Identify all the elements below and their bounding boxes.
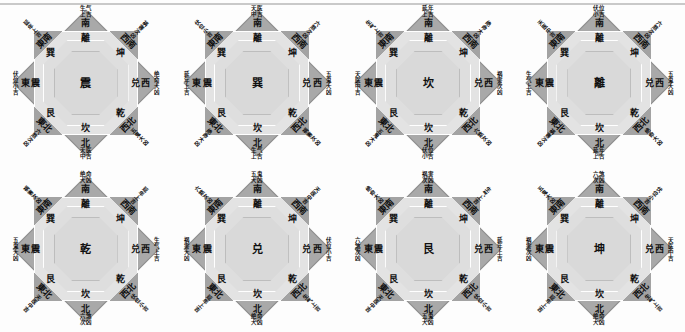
bagua-diagram-3[interactable]: 坎離坤兑乾坎艮震巽南西南西西北北東北東東南延年上吉绝命大凶祸害次凶六煞次凶伏位小…	[343, 0, 514, 166]
inner-trigram-n: 離	[595, 33, 604, 42]
center-trigram: 震	[80, 78, 91, 89]
star-label-n: 绝命大凶	[80, 172, 92, 184]
star-label-sw: 天医中吉	[364, 293, 384, 313]
star-grade-w: 次凶	[526, 249, 532, 261]
star-grade-s: 大凶	[251, 320, 263, 326]
star-label-se: 伏位小吉	[472, 293, 492, 313]
inner-trigram-e: 兑	[131, 79, 140, 88]
inner-trigram-s: 坎	[424, 290, 433, 299]
inner-trigram-w: 震	[203, 245, 212, 254]
inner-trigram-w: 震	[374, 79, 383, 88]
star-label-n: 祸害次凶	[422, 172, 434, 184]
inner-trigram-w: 震	[203, 79, 212, 88]
bagua-diagram-2[interactable]: 巽離坤兑乾坎艮震巽南西南西西北北東北東東南天医中吉六煞次凶五鬼大凶祸害次凶生气上…	[171, 0, 342, 166]
direction-label-n: 南	[424, 184, 433, 193]
bagua-diagram-6[interactable]: 兑離坤兑乾坎艮震巽南西南西西北北東北東東南五鬼大凶天医中吉伏位小吉生气上吉绝命大…	[171, 166, 342, 332]
star-label-e: 五鬼大凶	[325, 71, 331, 95]
inner-trigram-nw: 巽	[560, 48, 569, 57]
star-grade-se: 大凶	[651, 135, 663, 147]
star-grade-sw: 次凶	[535, 135, 547, 147]
star-label-e: 绝命大凶	[154, 71, 160, 95]
star-label-sw: 天医中吉	[22, 293, 42, 313]
star-grade-e: 上吉	[154, 249, 160, 261]
bagua-compass: 兑離坤兑乾坎艮震巽南西南西西北北東北東東南五鬼大凶天医中吉伏位小吉生气上吉绝命大…	[179, 171, 335, 327]
bagua-diagram-8[interactable]: 坤離坤兑乾坎艮震巽南西南西西北北東北東東南六煞次凶伏位小吉天医中吉生气上吉绝命大…	[514, 166, 685, 332]
star-label-nw: 生气上吉	[364, 19, 384, 39]
star-label-nw: 天医中吉	[535, 19, 555, 39]
star-grade-ne: 次凶	[301, 27, 313, 39]
direction-label-n: 南	[81, 184, 90, 193]
star-label-se: 伏位小吉	[129, 293, 149, 313]
center-trigram: 坎	[423, 78, 434, 89]
direction-label-w: 東	[535, 245, 544, 254]
inner-trigram-s: 坎	[595, 124, 604, 133]
star-grade-se: 上吉	[309, 301, 321, 313]
star-grade-ne: 上吉	[472, 193, 484, 205]
inner-trigram-s: 坎	[81, 124, 90, 133]
star-label-s: 五鬼大凶	[422, 314, 434, 326]
star-grade-n: 中吉	[251, 12, 263, 18]
inner-trigram-e: 兑	[645, 79, 654, 88]
inner-trigram-sw: 艮	[217, 275, 226, 284]
star-grade-e: 大凶	[154, 83, 160, 95]
inner-trigram-se: 乾	[288, 275, 297, 284]
star-grade-s: 小吉	[422, 154, 434, 160]
star-label-ne: 生气上吉	[472, 185, 492, 205]
star-name-e: 伏位	[325, 237, 331, 249]
bagua-diagram-5[interactable]: 乾離坤兑乾坎艮震巽南西南西西北北東北東東南绝命大凶延年上吉生气上吉伏位小吉六煞次…	[0, 166, 171, 332]
star-label-nw: 五鬼大凶	[535, 185, 555, 205]
star-grade-ne: 小吉	[643, 193, 655, 205]
bagua-diagram-7[interactable]: 艮離坤兑乾坎艮震巽南西南西西北北東北東東南祸害次凶生气上吉延年上吉伏位小吉五鬼大…	[343, 166, 514, 332]
direction-label-s: 北	[81, 139, 90, 148]
direction-label-n: 南	[81, 18, 90, 27]
inner-trigram-e: 兑	[474, 245, 483, 254]
inner-trigram-n: 離	[81, 199, 90, 208]
inner-trigram-se: 乾	[630, 275, 639, 284]
star-grade-w: 中吉	[354, 83, 360, 95]
star-label-e: 生气上吉	[154, 237, 160, 261]
bagua-diagram-4[interactable]: 離離坤兑乾坎艮震巽南西南西西北北東北東東南伏位小吉六煞次凶五鬼大凶绝命大凶延年上…	[514, 0, 685, 166]
inner-trigram-nw: 巽	[389, 214, 398, 223]
direction-label-s: 北	[595, 139, 604, 148]
star-label-ne: 延年上吉	[129, 185, 149, 205]
star-grade-e: 小吉	[325, 249, 331, 261]
star-label-se: 生气上吉	[301, 293, 321, 313]
star-label-nw: 伏位小吉	[193, 19, 213, 39]
star-label-sw: 祸害次凶	[535, 127, 555, 147]
inner-trigram-n: 離	[253, 199, 262, 208]
star-grade-se: 小吉	[137, 301, 149, 313]
star-label-ne: 伏位小吉	[643, 185, 663, 205]
inner-trigram-sw: 艮	[46, 275, 55, 284]
center-trigram: 坤	[594, 244, 605, 255]
star-grade-w: 上吉	[526, 83, 532, 95]
star-grade-n: 大凶	[251, 178, 263, 184]
star-label-w: 延年上吉	[183, 71, 189, 95]
star-grade-n: 次凶	[593, 178, 605, 184]
bagua-compass: 坎離坤兑乾坎艮震巽南西南西西北北東北東東南延年上吉绝命大凶祸害次凶六煞次凶伏位小…	[350, 5, 506, 161]
inner-trigram-w: 震	[31, 245, 40, 254]
inner-trigram-n: 離	[424, 33, 433, 42]
star-name-e: 绝命	[154, 71, 160, 83]
star-name-w: 生气	[526, 71, 532, 83]
inner-trigram-n: 離	[81, 33, 90, 42]
star-label-nw: 延年上吉	[22, 19, 42, 39]
star-label-nw: 祸害次凶	[22, 185, 42, 205]
star-label-e: 伏位小吉	[325, 237, 331, 261]
inner-trigram-se: 乾	[459, 109, 468, 118]
star-label-s: 延年上吉	[593, 148, 605, 160]
star-label-n: 五鬼大凶	[251, 172, 263, 184]
inner-trigram-nw: 巽	[46, 214, 55, 223]
star-label-sw: 五鬼大凶	[364, 127, 384, 147]
star-grade-se: 次凶	[309, 135, 321, 147]
star-grade-n: 小吉	[593, 12, 605, 18]
star-grade-n: 上吉	[80, 12, 92, 18]
center-trigram: 艮	[423, 244, 434, 255]
direction-label-w: 東	[192, 245, 201, 254]
bagua-diagram-1[interactable]: 震離坤兑乾坎艮震巽南西南西西北北東北東東南生气上吉祸害次凶绝命大凶五鬼大凶天医中…	[0, 0, 171, 166]
inner-trigram-w: 震	[31, 79, 40, 88]
direction-label-n: 南	[424, 18, 433, 27]
inner-trigram-ne: 坤	[116, 48, 125, 57]
star-grade-sw: 中吉	[22, 301, 34, 313]
star-grade-s: 中吉	[80, 154, 92, 160]
direction-label-e: 西	[655, 79, 664, 88]
